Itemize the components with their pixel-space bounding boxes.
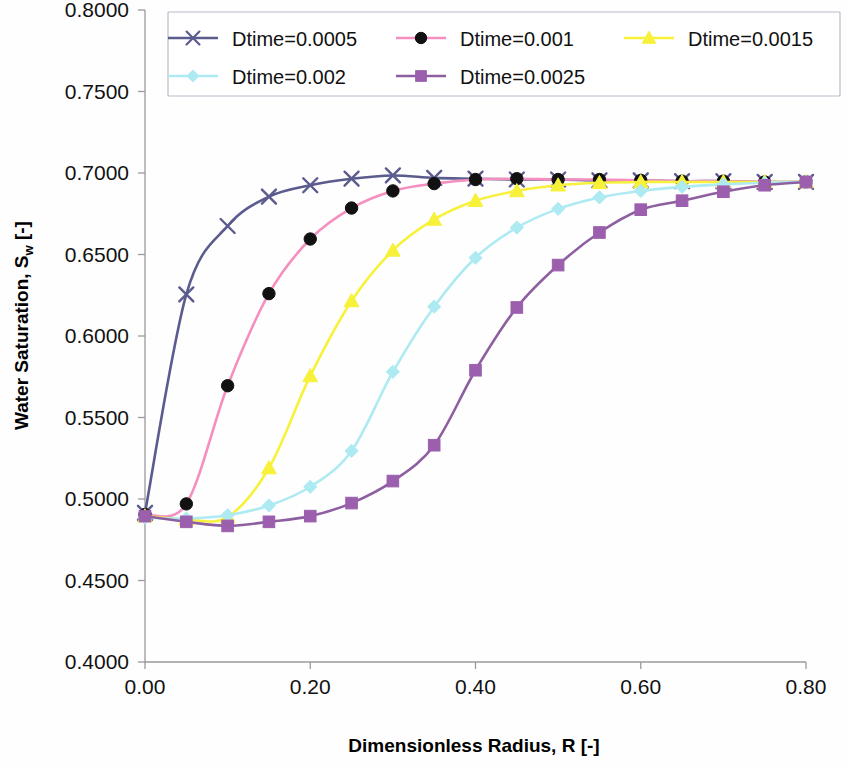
data-point-marker-diamond [304, 480, 317, 493]
x-tick-label: 0.00 [125, 675, 166, 698]
data-point-marker-square [139, 510, 151, 522]
data-point-marker-square [181, 516, 193, 528]
data-point-marker-square [470, 364, 482, 376]
y-tick-label: 0.6500 [65, 243, 129, 266]
y-axis-title-tail: [-] [11, 221, 32, 245]
series-0 [138, 168, 813, 519]
legend-label: Dtime=0.0005 [232, 28, 357, 50]
data-point-marker-diamond [552, 202, 565, 215]
y-tick-label: 0.8000 [65, 0, 129, 21]
data-point-marker-square [263, 516, 275, 528]
series-line [145, 179, 806, 517]
data-point-marker-circle [469, 173, 481, 185]
y-tick-label: 0.5500 [65, 406, 129, 429]
axis-lines [138, 10, 806, 669]
y-tick-label: 0.4500 [65, 569, 129, 592]
y-axis-title-main: Water Saturation, S [11, 255, 32, 430]
data-point-marker-square [800, 176, 812, 188]
data-point-marker-square [416, 71, 427, 82]
legend-label: Dtime=0.001 [460, 28, 574, 50]
chart-figure: 0.40000.45000.50000.55000.60000.65000.70… [0, 0, 848, 768]
data-point-marker-square [718, 186, 730, 198]
data-point-marker-square [552, 259, 564, 271]
legend-label: Dtime=0.0015 [688, 28, 813, 50]
data-point-marker-square [222, 520, 234, 532]
series-3 [138, 175, 812, 525]
svg-text:Water Saturation, Sw [-]: Water Saturation, Sw [-] [11, 221, 36, 430]
x-axis-title-text: Dimensionless Radius, R [-] [348, 735, 599, 756]
data-point-marker-square [304, 510, 316, 522]
y-tick-label: 0.6000 [65, 324, 129, 347]
y-axis-title: Water Saturation, Sw [-] [11, 221, 36, 430]
x-tick-label: 0.80 [786, 675, 827, 698]
data-point-marker-x [262, 190, 276, 204]
x-axis-tick-labels: 0.000.200.400.600.80 [125, 675, 827, 698]
series-line [145, 182, 806, 519]
series-line [145, 182, 806, 522]
y-tick-label: 0.5000 [65, 487, 129, 510]
series-line [145, 182, 806, 526]
data-point-marker-square [635, 204, 647, 216]
data-point-marker-square [676, 195, 688, 207]
data-point-marker-x [221, 219, 235, 233]
data-point-marker-circle [180, 498, 192, 510]
legend-label: Dtime=0.0025 [460, 66, 585, 88]
data-point-marker-triangle [303, 369, 318, 382]
data-point-marker-square [511, 302, 523, 314]
data-point-marker-diamond [510, 221, 523, 234]
x-tick-label: 0.60 [620, 675, 661, 698]
data-point-marker-diamond [262, 499, 275, 512]
legend-label: Dtime=0.002 [232, 66, 346, 88]
chart-legend: Dtime=0.0005Dtime=0.001Dtime=0.0015Dtime… [168, 12, 840, 96]
data-point-marker-square [346, 497, 358, 509]
data-point-marker-square [759, 179, 771, 191]
y-tick-label: 0.7500 [65, 80, 129, 103]
data-point-marker-diamond [386, 365, 399, 378]
data-point-marker-square [428, 439, 440, 451]
data-point-marker-circle [415, 32, 426, 43]
data-point-marker-diamond [593, 191, 606, 204]
y-tick-label: 0.7000 [65, 161, 129, 184]
data-point-marker-circle [263, 287, 275, 299]
data-point-marker-circle [304, 233, 316, 245]
series-2 [138, 175, 814, 526]
x-tick-label: 0.20 [290, 675, 331, 698]
data-point-marker-circle [221, 380, 233, 392]
data-point-marker-square [594, 227, 606, 239]
data-point-marker-circle [428, 177, 440, 189]
data-point-marker-triangle [427, 212, 442, 225]
y-axis-tick-labels: 0.40000.45000.50000.55000.60000.65000.70… [65, 0, 129, 673]
data-point-marker-square [387, 475, 399, 487]
data-series-group [138, 168, 814, 531]
x-axis-title: Dimensionless Radius, R [-] [348, 735, 599, 756]
water-saturation-line-chart: 0.40000.45000.50000.55000.60000.65000.70… [0, 0, 848, 768]
data-point-marker-circle [387, 185, 399, 197]
data-point-marker-triangle [262, 461, 277, 474]
x-tick-label: 0.40 [455, 675, 496, 698]
y-tick-label: 0.4000 [65, 650, 129, 673]
data-point-marker-x [179, 287, 193, 301]
data-point-marker-circle [345, 202, 357, 214]
series-1 [139, 173, 812, 521]
